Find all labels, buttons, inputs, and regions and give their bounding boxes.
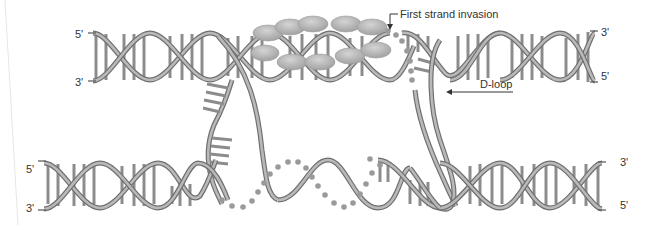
bottom-right-3prime-label: 3'	[620, 156, 628, 168]
recombination-diagram	[0, 0, 648, 225]
bottom-right-5prime-label: 5'	[620, 199, 628, 211]
strand-invasion-label: First strand invasion	[400, 8, 498, 20]
page-edge	[5, 0, 18, 225]
top-right-3prime-label: 3'	[601, 26, 609, 38]
strand-invasion-pointer	[387, 14, 398, 30]
bottom-left-5prime-label: 5'	[26, 163, 34, 175]
protein-filament	[251, 16, 391, 70]
top-left-3prime-label: 3'	[75, 76, 83, 88]
d-loop-label: D-loop	[480, 78, 512, 90]
top-left-5prime-label: 5'	[75, 28, 83, 40]
top-right-5prime-label: 5'	[601, 70, 609, 82]
bottom-left-3prime-label: 3'	[26, 202, 34, 214]
